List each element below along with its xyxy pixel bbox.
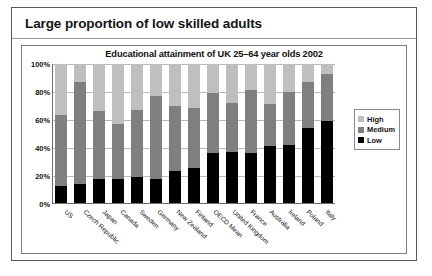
bar-segment-high bbox=[112, 64, 124, 124]
bar-us[interactable] bbox=[55, 64, 67, 203]
legend-label: High bbox=[367, 115, 383, 124]
y-tick-mark bbox=[47, 92, 50, 93]
legend-swatch-icon bbox=[358, 127, 364, 133]
y-tick-mark bbox=[47, 64, 50, 65]
x-tick-label: Italy bbox=[324, 208, 338, 221]
bar-segment-high bbox=[169, 64, 181, 106]
bar-czech-republic[interactable] bbox=[74, 64, 86, 203]
bar-segment-medium bbox=[245, 90, 257, 153]
bar-new-zealand[interactable] bbox=[169, 64, 181, 203]
page-title: Large proportion of low skilled adults bbox=[25, 16, 262, 31]
bar-segment-high bbox=[74, 64, 86, 82]
y-tick-mark bbox=[47, 120, 50, 121]
y-axis-tick-labels: 0%20%40%60%80%100% bbox=[22, 64, 50, 204]
bar-segment-high bbox=[321, 64, 333, 74]
bar-segment-high bbox=[264, 64, 276, 104]
bar-segment-low bbox=[112, 179, 124, 203]
bar-segment-medium bbox=[169, 106, 181, 171]
bar-segment-medium bbox=[188, 108, 200, 168]
bar-segment-low bbox=[188, 168, 200, 203]
bar-segment-medium bbox=[131, 110, 143, 177]
bar-france[interactable] bbox=[245, 64, 257, 203]
bar-united-kingdom[interactable] bbox=[226, 64, 238, 203]
bar-germany[interactable] bbox=[150, 64, 162, 203]
bar-segment-low bbox=[74, 184, 86, 203]
bar-segment-high bbox=[207, 64, 219, 93]
legend-item-high[interactable]: High bbox=[358, 115, 395, 124]
plot-area bbox=[52, 64, 335, 204]
bar-segment-low bbox=[302, 128, 314, 203]
chart-title: Educational attainment of UK 25–64 year … bbox=[22, 49, 406, 59]
bar-segment-high bbox=[283, 64, 295, 92]
bar-segment-high bbox=[150, 64, 162, 96]
bar-finland[interactable] bbox=[188, 64, 200, 203]
bar-italy[interactable] bbox=[321, 64, 333, 203]
bar-oecd-mean[interactable] bbox=[207, 64, 219, 203]
bar-segment-medium bbox=[226, 103, 238, 152]
chart-legend: HighMediumLow bbox=[354, 109, 400, 150]
bar-segment-low bbox=[55, 186, 67, 203]
bar-segment-medium bbox=[207, 93, 219, 153]
legend-item-medium[interactable]: Medium bbox=[358, 125, 395, 134]
bar-segment-medium bbox=[74, 82, 86, 183]
x-axis-line bbox=[52, 203, 335, 204]
bar-segment-low bbox=[131, 177, 143, 203]
bar-segment-high bbox=[226, 64, 238, 103]
bar-segment-medium bbox=[264, 104, 276, 146]
bar-segment-low bbox=[283, 145, 295, 203]
bar-segment-high bbox=[93, 64, 105, 111]
bar-segment-high bbox=[245, 64, 257, 90]
bar-australia[interactable] bbox=[264, 64, 276, 203]
slide-title-bar: Large proportion of low skilled adults bbox=[12, 8, 416, 39]
legend-label: Medium bbox=[367, 125, 395, 134]
bar-japan[interactable] bbox=[93, 64, 105, 203]
legend-label: Low bbox=[367, 136, 382, 145]
legend-swatch-icon bbox=[358, 116, 364, 122]
x-axis-tick-labels: USCzech RepublicJapanCanadaSwedenGermany… bbox=[52, 206, 335, 252]
bar-ireland[interactable] bbox=[283, 64, 295, 203]
bar-segment-low bbox=[264, 146, 276, 203]
bar-segment-medium bbox=[55, 115, 67, 186]
bar-segment-medium bbox=[93, 111, 105, 179]
bar-group bbox=[53, 64, 335, 203]
bar-segment-high bbox=[188, 64, 200, 108]
bar-sweden[interactable] bbox=[131, 64, 143, 203]
bar-segment-medium bbox=[302, 82, 314, 128]
bar-segment-high bbox=[131, 64, 143, 110]
bar-segment-low bbox=[226, 152, 238, 203]
bar-segment-medium bbox=[321, 74, 333, 121]
bar-segment-low bbox=[207, 153, 219, 203]
bar-segment-medium bbox=[283, 92, 295, 145]
slide-container: Large proportion of low skilled adults E… bbox=[11, 7, 417, 261]
y-tick-mark bbox=[47, 176, 50, 177]
bar-segment-low bbox=[321, 121, 333, 203]
x-tick-label: Poland bbox=[305, 208, 325, 227]
bar-segment-low bbox=[93, 179, 105, 203]
x-tick-label: US bbox=[64, 208, 75, 219]
x-tick-label: Canada bbox=[119, 208, 141, 229]
bar-segment-low bbox=[150, 179, 162, 203]
bar-segment-high bbox=[55, 64, 67, 115]
y-tick-mark bbox=[47, 204, 50, 205]
bar-segment-medium bbox=[150, 96, 162, 179]
bar-canada[interactable] bbox=[112, 64, 124, 203]
bar-segment-high bbox=[302, 64, 314, 82]
legend-swatch-icon bbox=[358, 137, 364, 143]
bar-segment-medium bbox=[112, 124, 124, 180]
bar-poland[interactable] bbox=[302, 64, 314, 203]
bar-segment-low bbox=[245, 153, 257, 203]
chart-frame: Educational attainment of UK 25–64 year … bbox=[21, 45, 407, 254]
legend-item-low[interactable]: Low bbox=[358, 136, 395, 145]
bar-segment-low bbox=[169, 171, 181, 203]
y-tick-mark bbox=[47, 148, 50, 149]
